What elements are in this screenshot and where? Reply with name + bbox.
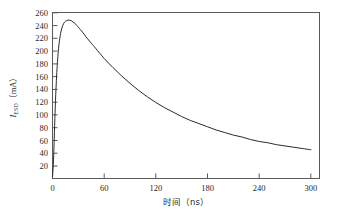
chart-figure: 260 240 220 200 180 160 140 120 100 80 6… [0, 0, 358, 213]
plot-frame [53, 13, 320, 179]
x-tick-label: 0 [50, 183, 54, 193]
y-tick-label: 20 [40, 161, 49, 171]
x-tick-label: 300 [304, 183, 317, 193]
svg-text:IESD（mA）: IESD（mA） [8, 73, 19, 119]
x-tick-labels: 0 60 120 180 240 300 [50, 183, 317, 193]
y-axis-ticks [53, 13, 58, 166]
y-tick-label: 120 [35, 97, 48, 107]
esd-current-curve [53, 20, 311, 176]
y-tick-label: 140 [35, 84, 48, 94]
y-tick-label: 220 [35, 33, 48, 43]
x-axis-title: 时间（ns） [163, 197, 209, 207]
y-axis-title-unit: （mA） [8, 73, 18, 104]
y-tick-label: 200 [35, 46, 48, 56]
y-tick-label: 180 [35, 59, 48, 69]
y-tick-label: 60 [40, 136, 49, 146]
x-tick-label: 180 [201, 183, 214, 193]
y-tick-label: 260 [35, 8, 48, 18]
x-axis-title-unit: （ns） [181, 197, 209, 207]
chart-plot-area: 260 240 220 200 180 160 140 120 100 80 6… [0, 0, 358, 213]
y-axis-title: IESD（mA） [8, 73, 19, 119]
y-tick-label: 240 [35, 21, 48, 31]
x-axis-ticks [53, 174, 311, 179]
y-tick-label: 40 [40, 148, 49, 158]
svg-text:时间（ns）: 时间（ns） [163, 197, 209, 207]
y-axis-title-subscript: ESD [13, 103, 19, 115]
y-tick-label: 100 [35, 110, 48, 120]
x-tick-label: 60 [100, 183, 109, 193]
x-axis-title-name: 时间 [163, 197, 181, 207]
y-tick-label: 160 [35, 72, 48, 82]
y-tick-label: 80 [40, 123, 49, 133]
x-tick-label: 120 [149, 183, 162, 193]
y-tick-labels: 260 240 220 200 180 160 140 120 100 80 6… [35, 8, 48, 171]
x-tick-label: 240 [253, 183, 266, 193]
